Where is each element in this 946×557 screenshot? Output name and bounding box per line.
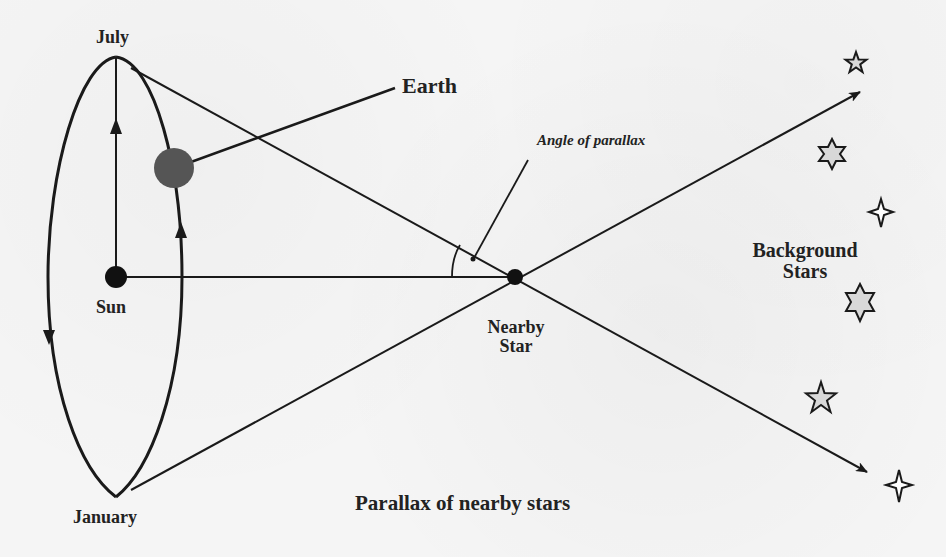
background-star-icon [846, 284, 874, 321]
diagram-title: Parallax of nearby stars [355, 492, 570, 514]
nearby-star-icon [507, 269, 523, 285]
label-nearby-star-line2: Star [476, 337, 556, 356]
earth-icon [154, 148, 194, 188]
label-background-stars-line2: Stars [730, 261, 880, 282]
sun-july-arrow-icon [110, 118, 122, 134]
parallax-diagram: July Earth Angle of parallax Sun Nearby … [0, 0, 946, 557]
background-star-icon [869, 199, 893, 227]
label-july: July [96, 28, 129, 47]
background-star-icon [806, 382, 836, 412]
label-sun: Sun [96, 298, 126, 317]
orbit-arrow-up-icon [175, 222, 187, 238]
sun-icon [105, 266, 127, 288]
background-star-icon [819, 139, 845, 169]
label-background-stars-line1: Background [730, 240, 880, 261]
label-earth: Earth [402, 74, 457, 97]
label-nearby-star: Nearby Star [476, 318, 556, 356]
label-nearby-star-line1: Nearby [476, 318, 556, 337]
background-star-icon [886, 470, 912, 502]
label-angle-of-parallax: Angle of parallax [537, 133, 645, 149]
parallax-angle-arc [452, 245, 460, 277]
angle-pointer-tip [471, 257, 476, 262]
label-background-stars: Background Stars [730, 240, 880, 282]
january-sightline [131, 92, 860, 490]
background-star-icon [846, 52, 867, 72]
angle-pointer-line [474, 160, 528, 258]
label-january: January [73, 508, 137, 527]
